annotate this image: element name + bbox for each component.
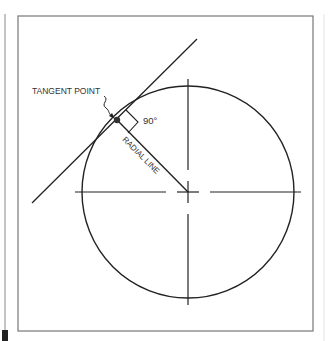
radial-line-label: RADIAL LINE <box>121 135 162 176</box>
radial-line <box>117 120 188 192</box>
tangent-point-label: TANGENT POINT <box>32 86 100 96</box>
right-angle-marker <box>126 110 138 133</box>
tangent-diagram: TANGENT POINT 90° RADIAL LINE <box>0 0 328 341</box>
margin-marker <box>2 330 8 341</box>
tangent-point-dot <box>114 117 120 123</box>
angle-label: 90° <box>143 115 158 126</box>
